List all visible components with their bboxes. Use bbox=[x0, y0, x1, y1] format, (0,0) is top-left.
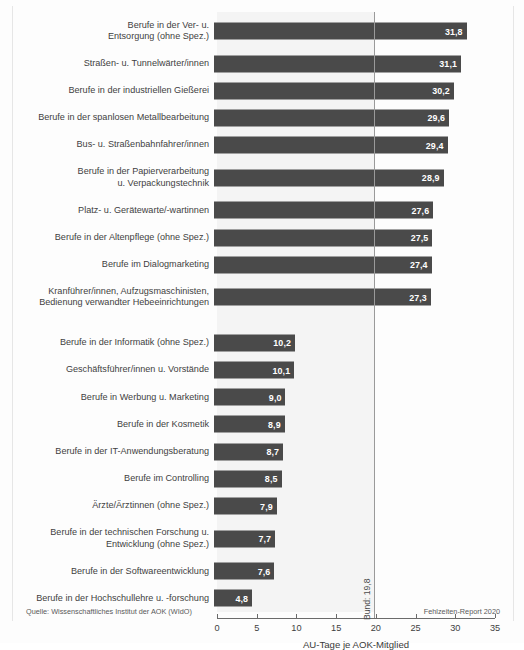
bar-row: Berufe in der Kosmetik8,9 bbox=[0, 411, 524, 438]
x-axis-tick-label: 15 bbox=[331, 623, 341, 633]
bar[interactable]: 9,0 bbox=[214, 389, 285, 406]
bar-value-label: 10,2 bbox=[273, 338, 291, 348]
x-axis-tick-label: 10 bbox=[291, 623, 301, 633]
bar-category-label: Berufe in der spanlosen Metallbearbeitun… bbox=[0, 112, 214, 123]
bar-category-label: Straßen- u. Tunnelwärter/innen bbox=[0, 58, 214, 69]
bar-rows: Berufe in der Ver- u. Entsorgung (ohne S… bbox=[0, 12, 524, 612]
bar-row: Berufe in der IT-Anwendungsberatung8,7 bbox=[0, 438, 524, 465]
bar-track: 8,5 bbox=[214, 465, 524, 492]
bar-category-label: Berufe in der Ver- u. Entsorgung (ohne S… bbox=[0, 20, 214, 43]
bar-row: Berufe in der Altenpflege (ohne Spez.)27… bbox=[0, 224, 524, 251]
bar-track: 8,7 bbox=[214, 438, 524, 465]
bar-category-label: Bus- u. Straßenbahnfahrer/innen bbox=[0, 139, 214, 150]
reference-line-label: Bund: 19,8 bbox=[362, 578, 372, 620]
bar-row: Berufe im Dialogmarketing27,4 bbox=[0, 251, 524, 278]
reference-line-bund bbox=[374, 12, 375, 618]
bar-row: Platz- u. Gerätewarte/-wartinnen27,6 bbox=[0, 197, 524, 224]
bar-category-label: Berufe in der industriellen Gießerei bbox=[0, 85, 214, 96]
bar-value-label: 27,3 bbox=[409, 292, 427, 302]
bar-value-label: 27,5 bbox=[411, 233, 429, 243]
bar-track: 31,8 bbox=[214, 12, 524, 50]
bar[interactable]: 27,3 bbox=[214, 289, 431, 306]
bar-track: 30,2 bbox=[214, 77, 524, 104]
bar-category-label: Platz- u. Gerätewarte/-wartinnen bbox=[0, 205, 214, 216]
footer-report-text: Fehlzeiten-Report 2020 bbox=[424, 607, 500, 616]
bar-row: Bus- u. Straßenbahnfahrer/innen29,4 bbox=[0, 132, 524, 159]
bar-value-label: 7,7 bbox=[259, 534, 272, 544]
bar[interactable]: 31,1 bbox=[214, 55, 461, 72]
bar-row: Berufe in der Softwareentwicklung7,6 bbox=[0, 558, 524, 585]
x-axis-tick-label: 0 bbox=[214, 623, 219, 633]
bar[interactable]: 10,1 bbox=[214, 362, 294, 379]
bar[interactable]: 10,2 bbox=[214, 334, 295, 351]
bar[interactable]: 7,9 bbox=[214, 498, 277, 515]
bar-track: 10,1 bbox=[214, 357, 524, 384]
x-axis-tick-label: 20 bbox=[371, 623, 381, 633]
bar-value-label: 28,9 bbox=[422, 173, 440, 183]
bar-row: Berufe in Werbung u. Marketing9,0 bbox=[0, 384, 524, 411]
plot-area: Bund: 19,8 Berufe in der Ver- u. Entsorg… bbox=[0, 10, 524, 570]
bar-track: 29,6 bbox=[214, 104, 524, 131]
bar-track: 27,4 bbox=[214, 251, 524, 278]
bar-category-label: Berufe in der Altenpflege (ohne Spez.) bbox=[0, 232, 214, 243]
bar-category-label: Berufe in der Kosmetik bbox=[0, 419, 214, 430]
x-axis-tick-label: 35 bbox=[490, 623, 500, 633]
footer-source-text: Quelle: Wissenschaftliches Institut der … bbox=[26, 607, 192, 616]
bar-track: 28,9 bbox=[214, 159, 524, 197]
bar-value-label: 29,6 bbox=[427, 113, 445, 123]
bar-value-label: 7,9 bbox=[260, 501, 273, 511]
x-axis-tick-label: 25 bbox=[410, 623, 420, 633]
x-axis-tick-label: 5 bbox=[254, 623, 259, 633]
bar-value-label: 31,8 bbox=[445, 26, 463, 36]
bar-track: 9,0 bbox=[214, 384, 524, 411]
bar-track: 27,5 bbox=[214, 224, 524, 251]
bar[interactable]: 28,9 bbox=[214, 169, 444, 186]
x-axis-tick-label: 30 bbox=[450, 623, 460, 633]
bar-track: 8,9 bbox=[214, 411, 524, 438]
bar[interactable]: 27,4 bbox=[214, 256, 432, 273]
bar-row: Berufe in der Ver- u. Entsorgung (ohne S… bbox=[0, 12, 524, 50]
bar-row: Berufe in der spanlosen Metallbearbeitun… bbox=[0, 104, 524, 131]
bar[interactable]: 7,6 bbox=[214, 563, 274, 580]
bar-value-label: 8,9 bbox=[268, 419, 281, 429]
bar[interactable]: 8,5 bbox=[214, 470, 282, 487]
bar[interactable]: 30,2 bbox=[214, 82, 454, 99]
bar-category-label: Kranführer/innen, Aufzugsmaschinisten, B… bbox=[0, 286, 214, 309]
bar-category-label: Berufe in der Papierverarbeitung u. Verp… bbox=[0, 166, 214, 189]
bar[interactable]: 29,6 bbox=[214, 109, 449, 126]
bar-value-label: 4,8 bbox=[235, 593, 248, 603]
bar[interactable]: 29,4 bbox=[214, 137, 448, 154]
bar-value-label: 10,1 bbox=[273, 365, 291, 375]
bar-track: 10,2 bbox=[214, 329, 524, 356]
bar-row: Kranführer/innen, Aufzugsmaschinisten, B… bbox=[0, 278, 524, 316]
bar[interactable]: 27,5 bbox=[214, 229, 432, 246]
bar-track: 7,9 bbox=[214, 492, 524, 519]
bar[interactable]: 31,8 bbox=[214, 23, 467, 40]
bar-category-label: Geschäftsführer/innen u. Vorstände bbox=[0, 364, 214, 375]
bar-value-label: 7,6 bbox=[258, 566, 271, 576]
bar-track: 29,4 bbox=[214, 132, 524, 159]
bar-value-label: 27,6 bbox=[412, 205, 430, 215]
bar-value-label: 31,1 bbox=[439, 59, 457, 69]
bar-value-label: 9,0 bbox=[269, 392, 282, 402]
bar-value-label: 8,5 bbox=[265, 474, 278, 484]
bar[interactable]: 27,6 bbox=[214, 202, 433, 219]
bar-row: Berufe im Controlling8,5 bbox=[0, 465, 524, 492]
bar[interactable]: 8,7 bbox=[214, 443, 283, 460]
bar-category-label: Ärzte/Ärztinnen (ohne Spez.) bbox=[0, 500, 214, 511]
bar-category-label: Berufe in der IT-Anwendungsberatung bbox=[0, 446, 214, 457]
bar-value-label: 30,2 bbox=[432, 86, 450, 96]
bar-row: Berufe in der Papierverarbeitung u. Verp… bbox=[0, 159, 524, 197]
x-axis-title: AU-Tage je AOK-Mitglied bbox=[303, 639, 409, 650]
bar-value-label: 27,4 bbox=[410, 260, 428, 270]
bar[interactable]: 8,9 bbox=[214, 416, 285, 433]
bar[interactable]: 4,8 bbox=[214, 590, 252, 607]
bar-row: Straßen- u. Tunnelwärter/innen31,1 bbox=[0, 50, 524, 77]
bar[interactable]: 7,7 bbox=[214, 530, 275, 547]
chart-footer: Quelle: Wissenschaftliches Institut der … bbox=[0, 607, 524, 621]
bar-track: 31,1 bbox=[214, 50, 524, 77]
bar-track: 27,3 bbox=[214, 278, 524, 316]
bar-category-label: Berufe in Werbung u. Marketing bbox=[0, 392, 214, 403]
bar-category-label: Berufe in der Informatik (ohne Spez.) bbox=[0, 337, 214, 348]
